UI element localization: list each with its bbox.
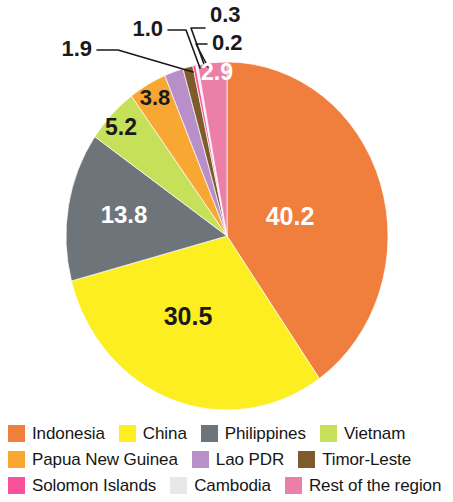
legend-label: Lao PDR — [216, 451, 284, 468]
legend-color-swatch — [8, 425, 25, 442]
pie-svg: 40.230.513.85.23.82.9 1.91.00.30.2 — [0, 0, 453, 418]
legend-label: Cambodia — [194, 477, 271, 494]
legend-label: Indonesia — [32, 425, 105, 442]
slice-value-label: 40.2 — [266, 202, 315, 230]
legend-item[interactable]: Philippines — [201, 425, 306, 442]
slice-value-label: 13.8 — [101, 201, 148, 228]
legend-item[interactable]: China — [119, 425, 187, 442]
slice-value-label: 2.9 — [201, 59, 233, 85]
legend-item[interactable]: Papua New Guinea — [8, 451, 178, 468]
legend-item[interactable]: Solomon Islands — [8, 477, 156, 494]
legend-item[interactable]: Indonesia — [8, 425, 105, 442]
legend-color-swatch — [298, 451, 315, 468]
pie-chart-plot: 40.230.513.85.23.82.9 1.91.00.30.2 — [0, 0, 453, 418]
slice-value-label: 5.2 — [105, 114, 137, 140]
slice-value-label: 30.5 — [164, 302, 213, 330]
legend-item[interactable]: Vietnam — [320, 425, 405, 442]
callout-label-group: 1.91.00.30.2 — [61, 2, 242, 61]
legend-label: Solomon Islands — [32, 477, 156, 494]
legend-row: IndonesiaChinaPhilippinesVietnam — [0, 420, 453, 446]
legend-color-swatch — [320, 425, 337, 442]
legend-item[interactable]: Lao PDR — [192, 451, 284, 468]
legend-color-swatch — [285, 477, 302, 494]
slice-value-label: 3.8 — [140, 85, 171, 110]
chart-legend: IndonesiaChinaPhilippinesVietnamPapua Ne… — [0, 420, 453, 502]
legend-label: Timor-Leste — [322, 451, 411, 468]
legend-label: Vietnam — [344, 425, 405, 442]
pie-chart-figure: 40.230.513.85.23.82.9 1.91.00.30.2 Indon… — [0, 0, 453, 502]
leader-line — [97, 50, 193, 72]
callout-value-label: 0.3 — [210, 2, 241, 27]
callout-value-label: 1.0 — [132, 16, 163, 41]
legend-color-swatch — [201, 425, 218, 442]
legend-color-swatch — [8, 477, 25, 494]
legend-color-swatch — [192, 451, 209, 468]
legend-color-swatch — [119, 425, 136, 442]
legend-color-swatch — [8, 451, 25, 468]
legend-item[interactable]: Rest of the region — [285, 477, 441, 494]
legend-label: Rest of the region — [309, 477, 441, 494]
legend-color-swatch — [170, 477, 187, 494]
legend-item[interactable]: Timor-Leste — [298, 451, 411, 468]
legend-item[interactable]: Cambodia — [170, 477, 271, 494]
legend-label: Philippines — [225, 425, 306, 442]
leader-line — [168, 30, 200, 68]
callout-value-label: 0.2 — [212, 30, 243, 55]
callout-value-label: 1.9 — [61, 36, 92, 61]
legend-row: Papua New GuineaLao PDRTimor-Leste — [0, 446, 453, 472]
legend-label: China — [143, 425, 187, 442]
legend-label: Papua New Guinea — [32, 451, 178, 468]
legend-row: Solomon IslandsCambodiaRest of the regio… — [0, 472, 453, 498]
